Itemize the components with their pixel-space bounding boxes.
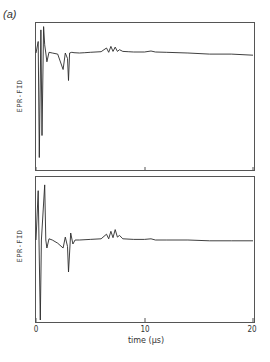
- top-y-axis-label: EPR-FID: [16, 78, 24, 114]
- x-tick-label-20: 20: [247, 325, 256, 334]
- bottom-fid-trace: [36, 185, 253, 320]
- figure-canvas: [0, 0, 270, 362]
- top-panel-ticks: [36, 167, 253, 170]
- x-tick-label-0: 0: [34, 325, 39, 334]
- bottom-panel-ticks: [36, 318, 253, 322]
- x-tick-label-10: 10: [140, 325, 149, 334]
- bottom-y-axis-label: EPR-FID: [16, 228, 24, 264]
- bottom-panel-frame: [36, 177, 255, 323]
- top-panel-frame: [36, 23, 255, 171]
- x-axis-label: time (μs): [128, 336, 164, 345]
- top-fid-trace: [36, 27, 253, 158]
